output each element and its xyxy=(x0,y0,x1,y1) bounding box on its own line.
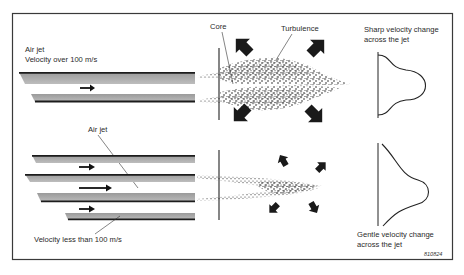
bottom-panel: Air jet Velocity les xyxy=(25,125,442,257)
top-turbulence-cloud xyxy=(220,58,350,111)
turbulence-arrow-icon-small-ne xyxy=(313,158,330,175)
sharp-velocity-profile xyxy=(378,52,426,118)
gentle-velocity-profile xyxy=(378,143,429,226)
top-panel: Air jet Velocity over 100 m/s xyxy=(19,22,439,129)
gentle-profile-label-line1: Gentle velocity change xyxy=(357,230,434,239)
flow-arrow-icon-3 xyxy=(79,206,95,213)
bottom-jet-stream xyxy=(197,175,322,201)
figure-code: 810824 xyxy=(424,251,442,257)
top-nozzle-plate-lower xyxy=(31,94,195,102)
gentle-profile-label-line2: across the jet xyxy=(357,240,403,249)
top-air-jet-label: Air jet xyxy=(25,45,45,54)
turbulence-arrow-icon-se xyxy=(301,101,329,129)
velocity-less-label: Velocity less than 100 m/s xyxy=(34,235,122,244)
bottom-nozzle-plate-4 xyxy=(65,213,195,220)
flow-arrow-icon-1 xyxy=(79,164,95,171)
turbulence-arrow-icon-small-se xyxy=(306,200,322,216)
turbulence-arrow-icon-nw xyxy=(229,32,257,60)
turbulence-leader-line xyxy=(276,34,292,60)
sharp-profile-label-line2: across the jet xyxy=(364,35,410,44)
top-nozzle-plate-upper xyxy=(19,72,195,84)
turbulence-arrow-icon-small-nw xyxy=(275,152,291,168)
turbulence-arrow-icon-small-sw xyxy=(265,200,282,217)
turbulence-arrow-icon-ne xyxy=(303,33,331,61)
bottom-nozzle-plate-1 xyxy=(32,155,195,163)
sharp-profile-label-line1: Sharp velocity change xyxy=(364,25,439,34)
turbulence-label: Turbulence xyxy=(281,24,319,33)
bottom-nozzle-plate-3 xyxy=(37,193,195,202)
bottom-air-jet-label: Air jet xyxy=(88,125,108,134)
top-jet-stream xyxy=(198,72,222,103)
core-label: Core xyxy=(210,22,226,31)
top-velocity-label: Velocity over 100 m/s xyxy=(25,55,97,64)
flow-arrow-icon xyxy=(80,85,95,92)
bottom-nozzle-plate-2 xyxy=(25,174,195,182)
flow-arrow-icon-2 xyxy=(79,185,112,192)
air-jet-diagram: Air jet Velocity over 100 m/s xyxy=(0,0,464,275)
